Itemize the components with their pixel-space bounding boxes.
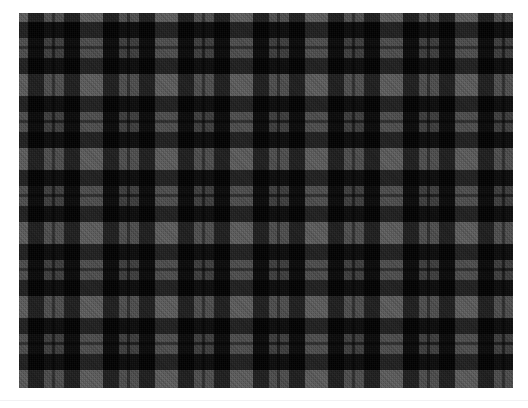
twill-weave-texture-layer <box>19 13 513 388</box>
page-canvas: Dark grey and black tartan plaid fabric … <box>0 0 528 408</box>
bottom-divider <box>0 400 528 401</box>
tartan-plaid-swatch: Dark grey and black tartan plaid fabric … <box>19 13 513 388</box>
